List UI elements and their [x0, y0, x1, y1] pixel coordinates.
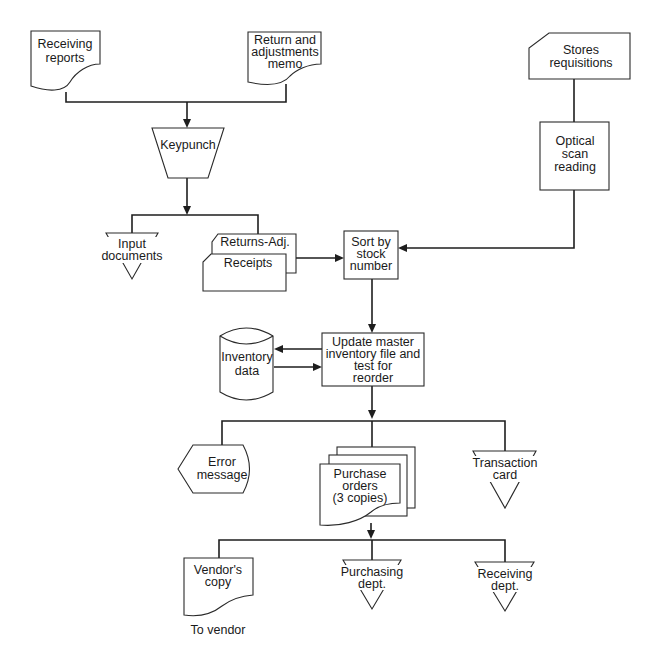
connector-receiving-to-merge — [66, 84, 286, 102]
label-line: Stores — [563, 43, 599, 57]
label-line: Optical — [556, 134, 595, 148]
node-stores-requisitions[interactable]: Stores requisitions — [529, 33, 630, 79]
node-purchase-orders[interactable]: Purchase orders (3 copies) — [320, 447, 415, 525]
trapezoid-shape — [152, 128, 224, 178]
label-line: (3 copies) — [333, 491, 388, 505]
label-line: Returns-Adj. — [220, 235, 289, 249]
label-line: data — [235, 364, 259, 378]
label-line: scan — [562, 147, 588, 161]
arrowhead-outputs — [368, 410, 376, 419]
label-line: dept. — [491, 579, 519, 593]
node-receiving-dept[interactable]: Receiving dept. — [473, 562, 537, 611]
label-line: Keypunch — [160, 138, 216, 152]
node-receiving-reports[interactable]: Receiving reports — [31, 31, 100, 90]
arrowhead-split — [183, 206, 191, 215]
node-optical-scan-reading[interactable]: Optical scan reading — [540, 122, 609, 190]
label-line: reports — [46, 51, 85, 65]
label-line: Inventory — [221, 350, 273, 364]
arrowhead-inventory — [274, 345, 283, 353]
label-line: Receiving — [38, 37, 93, 51]
label-line: requisitions — [549, 56, 612, 70]
arrowhead-sort-right — [398, 244, 407, 252]
node-transaction-card[interactable]: Transaction card — [470, 451, 540, 508]
node-keypunch[interactable]: Keypunch — [152, 128, 224, 178]
node-vendors-copy[interactable]: Vendor's copy — [184, 558, 253, 616]
node-error-message[interactable]: Error message — [178, 445, 250, 493]
connector-distribution-split — [219, 540, 505, 562]
arrowhead-sort-left — [335, 254, 344, 262]
arrowhead-keypunch — [183, 119, 191, 128]
arrowhead-update — [368, 324, 376, 333]
label-line: dept. — [358, 577, 386, 591]
node-sort-by-stock-number[interactable]: Sort by stock number — [344, 231, 398, 279]
label-line: card — [493, 468, 517, 482]
connector-split — [132, 215, 258, 234]
arrowhead-distribution — [367, 530, 375, 539]
label-line: message — [197, 468, 248, 482]
node-purchasing-dept[interactable]: Purchasing dept. — [340, 560, 404, 609]
node-update-master-inventory[interactable]: Update master inventory file and test fo… — [322, 333, 424, 386]
label-line: number — [350, 259, 392, 273]
label-line: copy — [205, 575, 232, 589]
to-vendor-annotation: To vendor — [191, 623, 246, 637]
label-line: memo — [268, 57, 303, 71]
label-line: reorder — [353, 371, 393, 385]
label-line: documents — [101, 249, 162, 263]
node-return-adjustments-memo[interactable]: Return and adjustments memo — [248, 32, 321, 84]
connector-optical-to-sort — [406, 190, 574, 248]
label-line: Receipts — [224, 256, 273, 270]
node-inventory-data[interactable]: Inventory data — [220, 328, 273, 400]
arrowhead-update-left — [313, 363, 322, 371]
label-line: Error — [208, 455, 236, 469]
label-line: reading — [554, 160, 596, 174]
node-receipts-card[interactable]: Receipts — [203, 254, 286, 291]
node-input-documents[interactable]: Input documents — [95, 233, 169, 279]
inventory-flowchart: Receiving reports Return and adjustments… — [0, 0, 665, 656]
